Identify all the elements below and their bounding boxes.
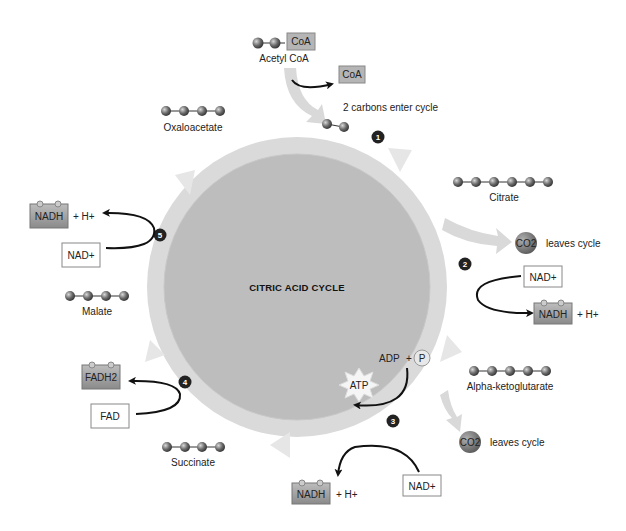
nadh-step5: NADH + H+ — [30, 201, 95, 228]
svg-text:5: 5 — [158, 231, 163, 240]
co2-exit-arrow-2 — [440, 390, 462, 432]
fad: FAD — [91, 404, 129, 428]
svg-text:CO2: CO2 — [516, 238, 537, 249]
nad-plus-step3: NAD+ — [403, 475, 441, 496]
succinate: Succinate — [162, 442, 225, 468]
atp-burst: ATP — [339, 368, 379, 402]
svg-text:1: 1 — [376, 133, 381, 142]
step-badge-2: 2 — [459, 258, 472, 271]
svg-text:NAD+: NAD+ — [530, 272, 557, 283]
ring-arrow-2 — [440, 335, 462, 362]
acetyl-coa-label: Acetyl CoA — [259, 53, 309, 64]
cycle-ring — [145, 137, 462, 458]
step5-arrow — [104, 213, 154, 248]
svg-text:ATP: ATP — [350, 380, 369, 391]
step-badge-3: 3 — [387, 415, 400, 428]
nadh-step3: NADH + H+ — [292, 480, 358, 504]
svg-text:ADP: ADP — [379, 353, 400, 364]
step4-arrow — [130, 381, 180, 414]
co2-exit-arrow-1 — [442, 218, 512, 254]
step-badge-1: 1 — [372, 131, 385, 144]
coa-released: CoA — [339, 66, 365, 83]
svg-text:CO2: CO2 — [460, 437, 481, 448]
step-badge-4: 4 — [179, 376, 192, 389]
citric-acid-cycle-diagram: CITRIC ACID CYCLE CoA Acetyl CoA CoA 2 c… — [0, 0, 626, 531]
nad-plus-step2: NAD+ — [524, 266, 562, 287]
svg-text:+: + — [406, 353, 412, 364]
step-badge-5: 5 — [154, 229, 167, 242]
co2-output-2: CO2 leaves cycle — [459, 431, 545, 453]
entry-arrow — [284, 68, 326, 124]
carbon-atom — [253, 38, 264, 49]
svg-text:FAD: FAD — [100, 411, 119, 422]
svg-text:P: P — [419, 353, 426, 364]
svg-text:leaves cycle: leaves cycle — [546, 238, 601, 249]
fadh2: FADH2 — [82, 362, 120, 389]
svg-text:NAD+: NAD+ — [68, 250, 95, 261]
entry-note: 2 carbons enter cycle — [343, 102, 438, 113]
citrate: Citrate — [453, 177, 553, 203]
svg-text:NAD+: NAD+ — [409, 481, 436, 492]
entering-carbons — [322, 119, 349, 132]
malate: Malate — [65, 291, 129, 317]
svg-text:NADH: NADH — [35, 211, 63, 222]
co2-output-1: CO2 leaves cycle — [515, 232, 601, 254]
step3-arrow — [338, 446, 419, 475]
svg-text:+ H+: + H+ — [73, 211, 95, 222]
ring-arrow-1 — [388, 148, 412, 172]
alpha-ketoglutarate: Alpha-ketoglutarate — [467, 366, 554, 392]
svg-text:+ H+: + H+ — [577, 309, 599, 320]
acetyl-coa: CoA Acetyl CoA — [253, 33, 316, 64]
svg-text:2: 2 — [463, 260, 468, 269]
cycle-title: CITRIC ACID CYCLE — [249, 282, 344, 293]
nadh-step2: NADH + H+ — [534, 300, 599, 324]
svg-text:NADH: NADH — [297, 489, 325, 500]
svg-text:Malate: Malate — [82, 306, 112, 317]
svg-text:Alpha-ketoglutarate: Alpha-ketoglutarate — [467, 381, 554, 392]
oxaloacetate: Oxaloacetate — [161, 106, 225, 133]
svg-text:NADH: NADH — [539, 309, 567, 320]
coa-tag: CoA — [291, 36, 311, 47]
svg-text:Oxaloacetate: Oxaloacetate — [164, 122, 223, 133]
carbon-atom — [270, 38, 281, 49]
svg-text:Succinate: Succinate — [171, 457, 215, 468]
svg-text:CoA: CoA — [342, 69, 362, 80]
svg-text:leaves cycle: leaves cycle — [490, 437, 545, 448]
svg-text:4: 4 — [183, 378, 188, 387]
nad-plus-step5: NAD+ — [62, 243, 100, 267]
svg-text:Citrate: Citrate — [489, 192, 519, 203]
svg-text:+ H+: + H+ — [336, 489, 358, 500]
svg-text:FADH2: FADH2 — [85, 372, 118, 383]
svg-text:3: 3 — [391, 417, 396, 426]
